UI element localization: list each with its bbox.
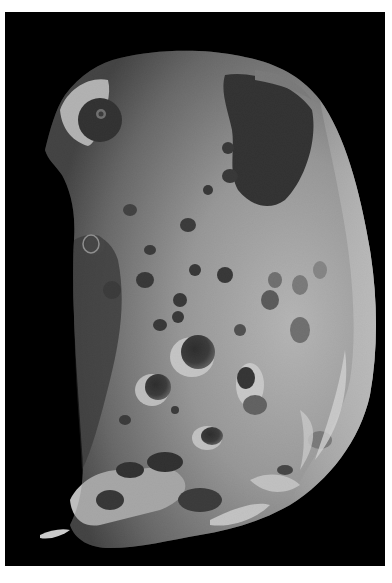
moon-photograph <box>5 12 385 566</box>
surface-texture <box>45 51 376 548</box>
photo-frame <box>5 12 385 566</box>
